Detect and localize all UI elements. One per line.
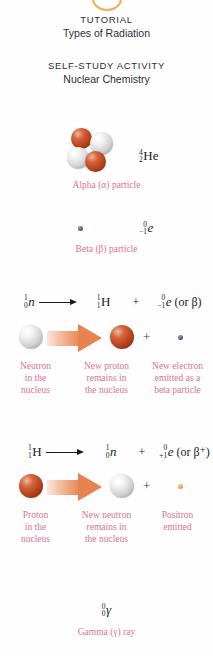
beta-nuclear-notation: 0 −1 e bbox=[139, 218, 153, 237]
neutron-sphere bbox=[19, 325, 43, 349]
nuclide-indices: 1 1 bbox=[28, 444, 32, 460]
element-symbol: e bbox=[168, 444, 174, 459]
caption-new-proton: New proton remains in the nucleus bbox=[71, 360, 142, 396]
nuclide-symbol: 4 2 He bbox=[139, 148, 158, 165]
equation-plus-sign: + bbox=[132, 295, 139, 310]
atomic-number: 2 bbox=[139, 156, 143, 164]
neutron-reactant-nuclide: 1 0 n bbox=[24, 294, 35, 311]
neutron-decay-equation: 1 0 n 1 1 H + 0 −1 e (or β) bbox=[0, 292, 213, 312]
atomic-number: 1 bbox=[97, 302, 101, 310]
diagram-plus-sign: + bbox=[143, 478, 150, 494]
page-top-ornament-ring bbox=[92, 0, 122, 11]
gamma-nuclear-notation: 0 0 γ bbox=[0, 600, 213, 619]
nuclide-indices: 0 +1 bbox=[159, 444, 167, 460]
proton-transform-diagram: + bbox=[0, 470, 213, 506]
beta-particle-caption: Beta (β) particle bbox=[0, 243, 213, 255]
proton-sphere bbox=[110, 325, 134, 349]
element-symbol: H bbox=[101, 294, 110, 309]
caption-neutron-in-nucleus: Neutron in the nucleus bbox=[0, 360, 71, 396]
alpha-particle-caption: Alpha (α) particle bbox=[0, 179, 213, 191]
element-symbol: n bbox=[110, 444, 117, 459]
beta-electron-dot bbox=[78, 226, 83, 231]
nuclide-indices: 1 0 bbox=[24, 294, 28, 310]
nuclide-symbol: 0 −1 e bbox=[139, 220, 153, 237]
positron-dot bbox=[178, 484, 183, 489]
element-symbol: e bbox=[147, 220, 153, 235]
gamma-ray-caption: Gamma (γ) ray bbox=[0, 626, 213, 638]
neutron-product-electron-nuclide: 0 −1 e bbox=[157, 294, 171, 311]
element-symbol: H bbox=[32, 444, 41, 459]
element-symbol: e bbox=[166, 294, 172, 309]
transform-arrow-icon bbox=[47, 472, 105, 502]
tutorial-title: Types of Radiation bbox=[0, 27, 213, 39]
tutorial-kicker: TUTORIAL bbox=[0, 14, 213, 25]
nuclide-indices: 4 2 bbox=[139, 149, 143, 165]
proton-decay-equation: 1 1 H 1 0 n + 0 +1 e (or β⁺) bbox=[0, 442, 213, 462]
nuclide-indices: 0 0 bbox=[102, 603, 106, 619]
arrow-head bbox=[78, 324, 102, 352]
self-study-header: SELF-STUDY ACTIVITY Nuclear Chemistry bbox=[0, 60, 213, 85]
arrow-shaft bbox=[47, 331, 81, 346]
arrow-shaft bbox=[47, 480, 81, 495]
nuclide-indices: 1 0 bbox=[106, 444, 110, 460]
proton-product-alt-label: (or β⁺) bbox=[176, 445, 209, 460]
element-symbol: n bbox=[28, 294, 35, 309]
atomic-number: −1 bbox=[139, 228, 147, 236]
electron-dot bbox=[178, 335, 183, 340]
nuclide-symbol: 0 0 γ bbox=[102, 602, 111, 619]
transform-arrow-icon bbox=[47, 323, 105, 353]
atomic-number: 0 bbox=[102, 610, 106, 618]
equation-plus-sign: + bbox=[138, 445, 145, 460]
self-study-title: Nuclear Chemistry bbox=[0, 73, 213, 85]
proton-product-positron-nuclide: 0 +1 e bbox=[159, 444, 173, 461]
caption-positron-emitted: Positron emitted bbox=[142, 509, 213, 545]
diagram-plus-sign: + bbox=[143, 329, 150, 345]
neutron-transform-diagram: + bbox=[0, 321, 213, 357]
atomic-number: 0 bbox=[106, 452, 110, 460]
alpha-particle-cluster bbox=[66, 126, 120, 176]
reaction-arrow-icon bbox=[39, 297, 79, 307]
element-symbol: γ bbox=[106, 602, 111, 617]
atomic-number: 1 bbox=[28, 452, 32, 460]
proton-reactant-nuclide: 1 1 H bbox=[28, 444, 42, 461]
reaction-arrow-icon bbox=[46, 447, 86, 457]
nuclide-indices: 0 −1 bbox=[157, 294, 165, 310]
self-study-kicker: SELF-STUDY ACTIVITY bbox=[0, 60, 213, 71]
element-symbol: He bbox=[143, 148, 158, 163]
proton-transform-captions: Proton in the nucleus New neutron remain… bbox=[0, 509, 213, 545]
alpha-proton-sphere bbox=[71, 128, 92, 149]
neutron-sphere bbox=[110, 474, 134, 498]
caption-new-neutron: New neutron remains in the nucleus bbox=[71, 509, 142, 545]
tutorial-header: TUTORIAL Types of Radiation bbox=[0, 14, 213, 39]
caption-new-electron: New electron emitted as a beta particle bbox=[142, 360, 213, 396]
proton-product-neutron-nuclide: 1 0 n bbox=[106, 444, 117, 461]
neutron-product-hydrogen-nuclide: 1 1 H bbox=[97, 294, 111, 311]
atomic-number: +1 bbox=[159, 452, 167, 460]
neutron-product-alt-label: (or β) bbox=[174, 295, 201, 310]
proton-sphere bbox=[19, 474, 43, 498]
nuclide-indices: 1 1 bbox=[97, 294, 101, 310]
alpha-nuclear-notation: 4 2 He bbox=[139, 146, 158, 165]
atomic-number: 0 bbox=[24, 302, 28, 310]
arrow-head bbox=[78, 473, 102, 501]
caption-proton-in-nucleus: Proton in the nucleus bbox=[0, 509, 71, 545]
nuclide-indices: 0 −1 bbox=[139, 221, 147, 237]
alpha-proton-sphere bbox=[85, 151, 106, 172]
neutron-transform-captions: Neutron in the nucleus New proton remain… bbox=[0, 360, 213, 396]
atomic-number: −1 bbox=[157, 302, 165, 310]
